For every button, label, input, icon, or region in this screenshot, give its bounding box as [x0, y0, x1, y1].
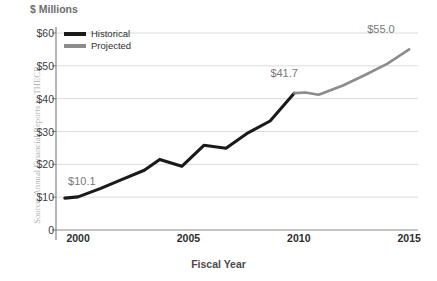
y-axis-tick-label: 0 [10, 224, 54, 236]
y-axis-tick-label: $10 [10, 191, 54, 203]
x-axis-tick-label: 2015 [397, 232, 420, 244]
y-axis-tick-label: $50 [10, 60, 54, 72]
chart-container: Source: Annual Financial Reports to THEC… [0, 0, 437, 281]
y-axis-tick-label: $40 [10, 93, 54, 105]
y-axis-tick-label: $60 [10, 27, 54, 39]
data-point-label: $10.1 [68, 175, 96, 187]
x-axis-tick-label: 2005 [177, 232, 200, 244]
legend-item-historical: Historical [64, 28, 131, 40]
y-axis-tick-labels: $60$50$40$30$20$100 [4, 0, 54, 281]
legend-swatch-historical-icon [64, 32, 86, 36]
data-point-label: $55.0 [367, 23, 395, 35]
x-axis-title: Fiscal Year [0, 258, 437, 270]
chart-legend: Historical Projected [64, 28, 131, 52]
legend-swatch-projected-icon [64, 44, 86, 48]
y-axis-tick-label: $20 [10, 158, 54, 170]
x-axis-tick-label: 2010 [287, 232, 310, 244]
legend-item-projected: Projected [64, 40, 131, 52]
legend-label-projected: Projected [91, 40, 131, 52]
x-axis-tick-label: 2000 [66, 232, 89, 244]
data-point-label: $41.7 [270, 67, 298, 79]
y-axis-tick-label: $30 [10, 126, 54, 138]
legend-label-historical: Historical [91, 28, 130, 40]
